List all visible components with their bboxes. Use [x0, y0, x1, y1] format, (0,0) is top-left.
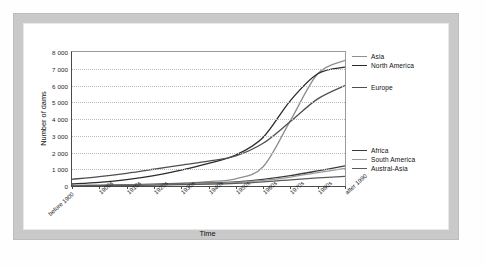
- legend-label: South America: [371, 156, 415, 163]
- gridline: [72, 69, 345, 70]
- legend-item-africa[interactable]: Africa: [352, 147, 388, 154]
- y-axis-tick-label: 7 000: [52, 65, 68, 72]
- legend-label: Europe: [371, 84, 393, 91]
- y-axis-tick-label: 0: [64, 183, 68, 190]
- y-axis-title: Number of dams: [37, 51, 49, 185]
- y-axis-tick-label: 1 000: [52, 166, 68, 173]
- figure-frame: Number of dams 01 0002 0003 0004 0005 00…: [14, 14, 458, 239]
- gridline: [72, 119, 345, 120]
- gridline: [72, 136, 345, 137]
- x-axis-title: Time: [71, 229, 344, 238]
- y-axis-tick-label: 4 000: [52, 116, 68, 123]
- x-axis-tick-label: before 1900: [47, 191, 75, 217]
- gridline: [72, 153, 345, 154]
- legend-swatch: [352, 168, 367, 169]
- y-axis-tick-label: 6 000: [52, 82, 68, 89]
- plot-area: 01 0002 0003 0004 0005 0006 0007 0008 00…: [71, 51, 346, 187]
- gridline: [72, 169, 345, 170]
- series-line: [72, 60, 345, 185]
- legend-item-asia[interactable]: Asia: [352, 53, 384, 60]
- y-axis-tick-label: 2 000: [52, 149, 68, 156]
- y-axis-tick-label: 5 000: [52, 99, 68, 106]
- legend-item-austral-asia[interactable]: Austral-Asia: [352, 165, 408, 172]
- legend-swatch: [352, 87, 367, 88]
- gridline: [72, 102, 345, 103]
- legend-swatch: [352, 65, 367, 66]
- legend-label: Asia: [371, 53, 384, 60]
- y-axis-tick-label: 8 000: [52, 49, 68, 56]
- legend-label: Africa: [371, 147, 388, 154]
- legend-label: Austral-Asia: [371, 165, 408, 172]
- figure-frame-inner: Number of dams 01 0002 0003 0004 0005 00…: [23, 23, 449, 230]
- legend-swatch: [352, 56, 367, 57]
- y-axis-tick-label: 3 000: [52, 132, 68, 139]
- legend-item-south-america[interactable]: South America: [352, 156, 415, 163]
- y-axis-title-text: Number of dams: [39, 91, 48, 146]
- legend-label: North America: [371, 62, 414, 69]
- legend-item-europe[interactable]: Europe: [352, 84, 393, 91]
- chart-legend: AsiaNorth AmericaEuropeAfricaSouth Ameri…: [352, 51, 447, 185]
- gridline: [72, 86, 345, 87]
- legend-item-north-america[interactable]: North America: [352, 62, 414, 69]
- legend-swatch: [352, 150, 367, 151]
- chart-figure: Number of dams 01 0002 0003 0004 0005 00…: [0, 0, 486, 266]
- legend-swatch: [352, 159, 367, 160]
- series-line: [72, 86, 345, 180]
- x-axis-tick: [72, 186, 73, 189]
